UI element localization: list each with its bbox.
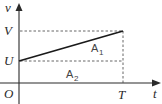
velocity-time-diagram: v V U O T t A 1 A 2 xyxy=(0,0,162,104)
y-axis-label: v xyxy=(5,0,11,15)
svg-text:A: A xyxy=(66,68,74,80)
x-axis-label: t xyxy=(153,86,157,101)
svg-text:A: A xyxy=(91,42,99,54)
region-a2-label: A 2 xyxy=(66,68,79,83)
svg-text:2: 2 xyxy=(74,74,79,83)
u-marker-label: U xyxy=(4,53,15,68)
svg-text:1: 1 xyxy=(99,48,104,57)
velocity-line xyxy=(19,31,123,61)
t-marker-label: T xyxy=(118,87,126,102)
v-marker-label: V xyxy=(4,23,14,38)
origin-label: O xyxy=(4,86,14,101)
region-a1-label: A 1 xyxy=(91,42,104,57)
y-axis-arrow-icon xyxy=(16,3,23,11)
